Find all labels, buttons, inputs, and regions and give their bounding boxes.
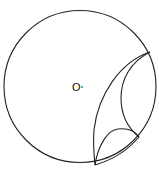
center-point <box>81 86 83 88</box>
geometry-diagram: O <box>0 0 159 171</box>
center-label: O <box>72 81 81 93</box>
